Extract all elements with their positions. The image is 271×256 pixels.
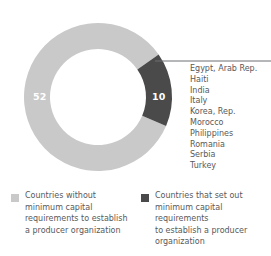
legend-item-countries-with-requirement[interactable]: Countries that set out minimum capital r… [141,190,267,248]
country-list-item: Romania [190,140,271,151]
country-list: Egypt, Arab Rep.HaitiIndiaItalyKorea, Re… [190,64,271,172]
country-list-item: Morocco [190,118,271,129]
country-list-item: Turkey [190,161,271,172]
legend-swatch-major [11,194,19,202]
country-list-item: Serbia [190,150,271,161]
country-list-item: Egypt, Arab Rep. [190,64,271,75]
country-list-item: Philippines [190,129,271,140]
legend-item-countries-without-requirement[interactable]: Countries without minimum capital requir… [11,190,133,236]
legend-label-minor: Countries that set out minimum capital r… [155,190,267,248]
country-list-item: Haiti [190,75,271,86]
donut-value-minor: 10 [152,92,166,102]
country-list-item: India [190,86,271,97]
legend-swatch-minor [141,194,149,202]
donut-value-major: 52 [33,92,47,102]
country-list-item: Italy [190,96,271,107]
donut-chart-area: 52 10 Egypt, Arab Rep.HaitiIndiaItalyKor… [0,0,271,185]
legend-label-major: Countries without minimum capital requir… [25,190,133,236]
chart-legend: Countries without minimum capital requir… [0,190,271,256]
country-list-item: Korea, Rep. [190,107,271,118]
